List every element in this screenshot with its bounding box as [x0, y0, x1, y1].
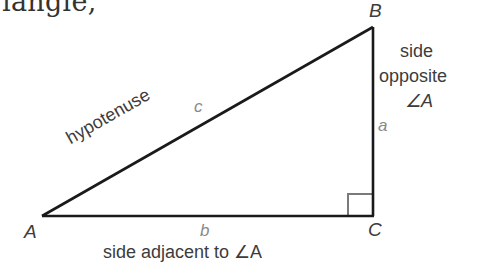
side-a-letter: a: [378, 117, 387, 134]
right-triangle-diagram: iangle, A B C hypotenuse c side opposite…: [0, 0, 486, 275]
opposite-label-line2: opposite: [379, 67, 447, 85]
side-b-letter: b: [200, 222, 209, 239]
vertex-a-label: A: [24, 222, 37, 241]
opposite-label-line1: side: [400, 42, 433, 60]
adjacent-label: side adjacent to ∠A: [103, 243, 262, 261]
vertex-b-label: B: [369, 1, 382, 20]
right-angle-marker: [348, 194, 372, 216]
side-c-letter: c: [194, 98, 203, 115]
opposite-label-line3: ∠A: [405, 92, 433, 110]
vertex-c-label: C: [368, 220, 382, 239]
